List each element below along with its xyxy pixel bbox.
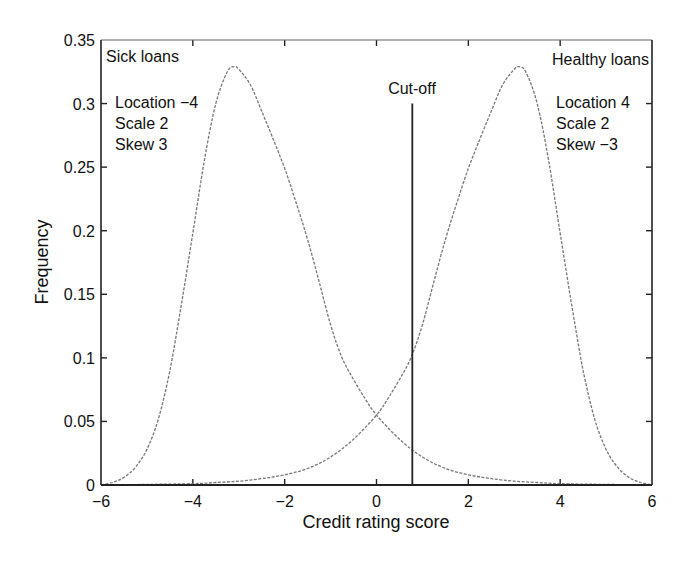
y-tick-label: 0.05	[64, 413, 95, 430]
y-tick-label: 0	[86, 477, 95, 494]
x-tick-label: 4	[556, 493, 565, 510]
y-tick-label: 0.2	[73, 223, 95, 240]
y-tick-label: 0.25	[64, 159, 95, 176]
chart: 00.050.10.150.20.250.30.35 −6−4−20246 Si…	[0, 0, 686, 566]
y-tick-label: 0.15	[64, 286, 95, 303]
cutoff-label: Cut-off	[388, 80, 436, 97]
healthy-skew-label: Skew −3	[556, 136, 618, 153]
y-tick-label: 0.3	[73, 96, 95, 113]
healthy-scale-label: Scale 2	[556, 115, 609, 132]
y-tick-label: 0.35	[64, 32, 95, 49]
x-axis-label: Credit rating score	[302, 512, 449, 532]
x-tick-label: 0	[372, 493, 381, 510]
sick-skew-label: Skew 3	[115, 136, 168, 153]
x-tick-label: 6	[648, 493, 657, 510]
sick-scale-label: Scale 2	[115, 115, 168, 132]
y-tick-label: 0.1	[73, 350, 95, 367]
sick-location-label: Location −4	[115, 94, 198, 111]
healthy-location-label: Location 4	[556, 94, 630, 111]
y-axis-label: Frequency	[32, 219, 52, 304]
x-tick-label: −6	[92, 493, 110, 510]
x-tick-label: −4	[184, 493, 202, 510]
x-tick-label: 2	[464, 493, 473, 510]
x-tick-label: −2	[276, 493, 294, 510]
sick-loans-title: Sick loans	[106, 48, 179, 65]
healthy-loans-title: Healthy loans	[552, 51, 649, 68]
